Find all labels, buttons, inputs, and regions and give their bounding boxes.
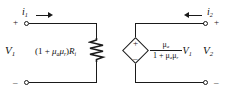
source-negative-sign: – [133,54,138,63]
input-voltage-label: V1 [5,44,15,57]
output-bottom-polarity-sign: – [214,78,219,87]
input-current-label: i1 [22,6,28,18]
output-bottom-wire [135,82,204,83]
source-positive-sign: + [133,39,138,48]
series-resistor [88,38,106,66]
output-bottom-terminal [203,80,208,85]
source-bottom-lead [135,64,136,83]
resistor-bottom-lead [96,61,97,83]
source-gain-fraction: μa 1 + μaμr [150,41,182,61]
fraction-denominator: 1 + μaμr [150,52,182,61]
input-top-polarity-sign: + [13,18,18,27]
input-top-wire [29,23,97,24]
fraction-numerator: μa [150,41,182,50]
source-top-lead [135,23,136,37]
output-top-wire [135,23,204,24]
output-current-arrow-head-icon [184,12,189,18]
input-bottom-wire [29,82,97,83]
input-bottom-polarity-sign: – [13,78,18,87]
input-bottom-terminal [24,80,29,85]
resistor-top-lead [96,23,97,39]
output-current-arrow-shaft [189,15,202,16]
output-voltage-label: V2 [203,44,213,57]
input-current-arrow-head-icon [48,12,53,18]
output-top-polarity-sign: + [214,18,219,27]
resistor-expression: (1 + μaμr)Ri [35,46,76,57]
source-multiplier-label: V1 [183,45,192,57]
output-current-label: i2 [207,6,213,18]
circuit-diagram: i1 + – V1 (1 + μaμr)Ri i2 + [0,0,232,99]
dependent-source-expression: μa 1 + μaμr V1 [150,41,192,61]
